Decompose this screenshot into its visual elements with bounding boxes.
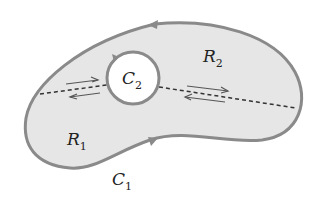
green-theorem-diagram: C2 R2 R1 C1 bbox=[0, 0, 322, 209]
label-c1: C1 bbox=[112, 169, 132, 193]
arrow-icon-c1-bottom bbox=[148, 137, 158, 146]
